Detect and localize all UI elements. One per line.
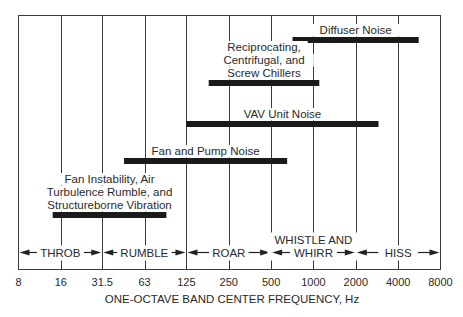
bar-fan-instability-air-turbulence-rumble-and-structureborne-vibration: Fan Instability, AirTurbulence Rumble, a… <box>35 173 183 218</box>
arrowhead-right-icon <box>175 250 185 256</box>
bar-label: Fan Instability, Air <box>65 173 155 185</box>
x-tick-label: 250 <box>220 276 238 288</box>
bar-vav-unit-noise: VAV Unit Noise <box>186 108 378 127</box>
x-tick-label: 500 <box>262 276 280 288</box>
bar-label: Screw Chillers <box>227 67 301 79</box>
arrowhead-left-icon <box>187 250 197 256</box>
bar-diffuser-noise: Diffuser Noise <box>293 24 419 43</box>
x-tick-label: 63 <box>138 276 150 288</box>
region-label: HISS <box>385 247 412 259</box>
x-tick-label: 2000 <box>344 276 368 288</box>
region-whistle-and-whirr: WHISTLE ANDWHIRR <box>268 233 360 261</box>
region-label: WHIRR <box>294 247 333 259</box>
frequency-range-chart: Diffuser NoiseReciprocating,Centrifugal,… <box>0 0 463 317</box>
region-label: ROAR <box>212 247 245 259</box>
noise-source-bars: Diffuser NoiseReciprocating,Centrifugal,… <box>35 24 418 218</box>
x-tick-label: 125 <box>177 276 195 288</box>
range-bar <box>186 121 378 127</box>
arrowhead-right-icon <box>91 250 101 256</box>
arrowhead-right-icon <box>430 250 440 256</box>
arrowhead-left-icon <box>20 250 30 256</box>
x-tick-label: 8000 <box>428 276 452 288</box>
bar-label: Diffuser Noise <box>320 24 392 36</box>
bar-label: Reciprocating, <box>227 41 301 53</box>
x-tick-label: 4000 <box>386 276 410 288</box>
arrowhead-left-icon <box>103 250 113 256</box>
range-bar <box>53 212 167 218</box>
bar-label: Centrifugal, and <box>223 54 304 66</box>
region-hiss: HISS <box>357 246 440 261</box>
range-bar <box>209 80 320 86</box>
x-axis-tick-labels: 81631.5631252505001000200040008000 <box>15 276 452 288</box>
region-roar: ROAR <box>187 246 270 261</box>
region-throb: THROB <box>20 246 102 261</box>
x-tick-label: 16 <box>55 276 67 288</box>
range-bar <box>124 158 287 164</box>
bar-label: Turbulence Rumble, and <box>47 186 173 198</box>
region-rumble: RUMBLE <box>103 246 185 261</box>
x-tick-label: 1000 <box>301 276 325 288</box>
range-bar <box>293 37 419 43</box>
region-label: WHISTLE AND <box>274 234 352 246</box>
bar-label: Structureborne Vibration <box>47 199 171 211</box>
bar-reciprocating-centrifugal-and-screw-chillers: Reciprocating,Centrifugal, andScrew Chil… <box>209 41 320 86</box>
x-axis-title: ONE-OCTAVE BAND CENTER FREQUENCY, Hz <box>105 293 360 305</box>
x-tick-label: 31.5 <box>92 276 113 288</box>
bar-fan-and-pump-noise: Fan and Pump Noise <box>124 145 287 164</box>
region-label: RUMBLE <box>120 247 168 259</box>
bar-label: Fan and Pump Noise <box>152 145 260 157</box>
bar-label: VAV Unit Noise <box>244 108 322 120</box>
region-label: THROB <box>40 247 81 259</box>
x-tick-label: 8 <box>15 276 21 288</box>
